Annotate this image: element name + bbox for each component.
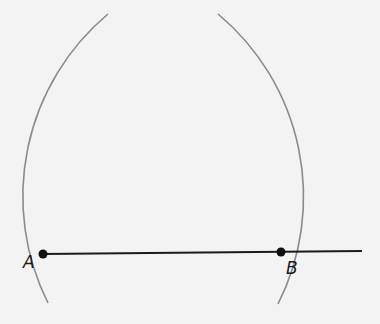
point-b [277,248,286,257]
label-b: B [286,258,298,278]
label-a: A [22,252,35,272]
line-ab [43,251,362,254]
arc-centered-at-b [23,14,108,303]
construction-diagram: A B [0,0,380,324]
point-a [39,250,48,259]
